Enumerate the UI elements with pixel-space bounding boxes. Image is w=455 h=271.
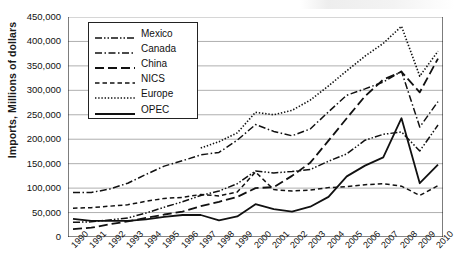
legend-label: Europe	[136, 89, 173, 99]
legend-item-nics: NICS	[89, 72, 197, 87]
chart-legend: MexicoCanadaChinaNICSEuropeOPEC	[88, 22, 198, 119]
y-tick-label: 250,000	[3, 110, 61, 120]
legend-item-canada: Canada	[89, 41, 197, 56]
series-line-mexico	[73, 125, 438, 222]
y-tick-label: 450,000	[3, 12, 61, 22]
legend-item-mexico: Mexico	[89, 26, 197, 41]
legend-label: OPEC	[136, 105, 169, 115]
legend-item-opec: OPEC	[89, 102, 197, 117]
legend-swatch-europe	[94, 89, 136, 99]
legend-swatch-nics	[94, 74, 136, 84]
y-tick-label: 100,000	[3, 183, 61, 193]
x-axis-tick-labels: 1990199119921993199419951996199719981999…	[0, 241, 455, 271]
y-tick-label: 150,000	[3, 159, 61, 169]
legend-label: NICS	[136, 74, 165, 84]
series-line-europe	[201, 26, 438, 148]
scan-artifact	[300, 0, 455, 9]
legend-swatch-china	[94, 59, 136, 69]
legend-swatch-mexico	[94, 29, 136, 39]
y-tick-label: 50,000	[3, 208, 61, 218]
y-axis-tick-labels: 050,000100,000150,000200,000250,000300,0…	[0, 0, 61, 271]
y-tick-label: 300,000	[3, 85, 61, 95]
chart-figure: Imports, Millions of dollars 050,000100,…	[0, 0, 455, 271]
legend-label: Mexico	[136, 29, 173, 39]
legend-swatch-opec	[94, 105, 136, 115]
y-tick-label: 200,000	[3, 134, 61, 144]
y-tick-label: 400,000	[3, 36, 61, 46]
legend-item-europe: Europe	[89, 87, 197, 102]
legend-item-china: China	[89, 56, 197, 71]
y-tick-label: 350,000	[3, 61, 61, 71]
series-line-nics	[73, 172, 438, 208]
legend-label: Canada	[136, 44, 176, 54]
legend-swatch-canada	[94, 44, 136, 54]
legend-label: China	[136, 59, 167, 69]
